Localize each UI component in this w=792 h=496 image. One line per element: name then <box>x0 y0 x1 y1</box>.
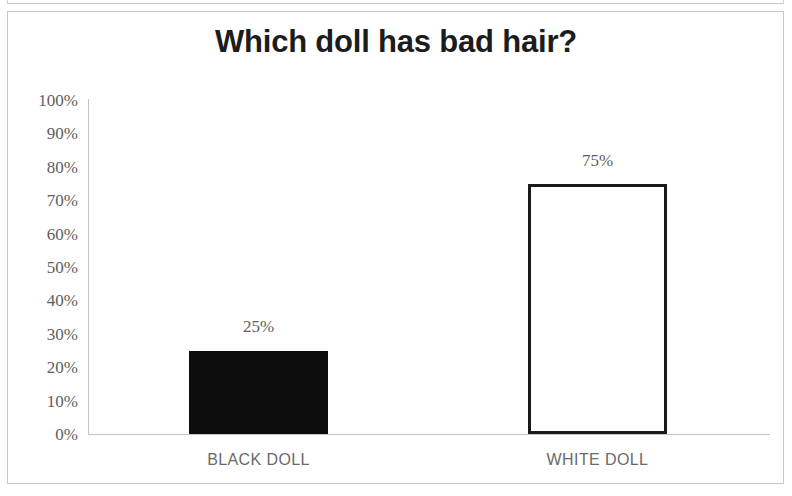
y-axis-tick-label: 70% <box>0 192 78 209</box>
bar-value-label-white-doll: 75% <box>528 152 667 169</box>
y-axis-tick-label: 60% <box>0 225 78 242</box>
y-axis-tick-label: 50% <box>0 259 78 276</box>
bar-black-doll[interactable] <box>189 351 328 435</box>
y-axis-tick-label: 90% <box>0 125 78 142</box>
chart-page: Which doll has bad hair? 100% 90% 80% 70… <box>0 0 792 496</box>
category-label-white-doll: WHITE DOLL <box>528 452 667 468</box>
x-axis-line <box>88 434 770 435</box>
y-axis-tick-label: 20% <box>0 359 78 376</box>
bar-value-label-black-doll: 25% <box>189 318 328 335</box>
y-axis-tick-label: 100% <box>0 92 78 109</box>
y-axis-tick-label: 0% <box>0 426 78 443</box>
y-axis-tick-label: 40% <box>0 292 78 309</box>
y-axis-tick-label: 80% <box>0 158 78 175</box>
plot-area: 100% 90% 80% 70% 60% 50% 40% 30% 20% 10%… <box>0 0 792 496</box>
category-label-black-doll: BLACK DOLL <box>189 452 328 468</box>
bar-white-doll[interactable] <box>528 184 667 435</box>
y-axis-tick-label: 30% <box>0 325 78 342</box>
y-axis-tick-label: 10% <box>0 392 78 409</box>
y-axis-line <box>88 99 89 435</box>
